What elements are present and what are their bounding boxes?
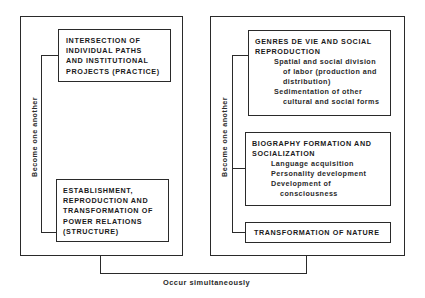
left-connector-bottom-branch bbox=[41, 232, 56, 233]
bottom-connector-horizontal bbox=[100, 273, 307, 274]
biography-title: BIOGRAPHY FORMATION AND SOCIALIZATION bbox=[252, 139, 390, 159]
right-connector-vertical bbox=[232, 55, 233, 233]
biography-item-2: Personality development bbox=[271, 169, 390, 179]
bottom-connector-right bbox=[306, 256, 307, 274]
genres-de-vie-box: GENRES DE VIE AND SOCIAL REPRODUCTION Sp… bbox=[248, 30, 391, 116]
genres-item-2: Sedimentation of other cultural and soci… bbox=[274, 87, 390, 107]
transformation-of-nature-title: TRANSFORMATION OF NATURE bbox=[254, 228, 390, 238]
biography-box: BIOGRAPHY FORMATION AND SOCIALIZATION La… bbox=[245, 132, 391, 206]
left-relation-label: Become one another bbox=[30, 97, 39, 177]
right-connector-middle-branch bbox=[232, 168, 245, 169]
genres-item-1: Spatial and social division of labor (pr… bbox=[274, 57, 390, 87]
right-connector-top-branch bbox=[232, 55, 248, 56]
transformation-of-nature-box: TRANSFORMATION OF NATURE bbox=[245, 222, 391, 243]
left-connector-vertical bbox=[41, 55, 42, 233]
biography-item-1: Language acquisition bbox=[271, 159, 390, 169]
bottom-connector-left bbox=[100, 256, 101, 274]
biography-item-3: Development of consciousness bbox=[271, 179, 390, 199]
structure-box-title: ESTABLISHMENT, REPRODUCTION AND TRANSFOR… bbox=[63, 186, 168, 237]
simultaneity-label: Occur simultaneously bbox=[163, 278, 250, 287]
left-connector-top-branch bbox=[41, 55, 58, 56]
practice-box: INTERSECTION OF INDIVIDUAL PATHS AND INS… bbox=[58, 29, 171, 82]
biography-items: Language acquisition Personality develop… bbox=[252, 159, 390, 199]
genres-de-vie-items: Spatial and social division of labor (pr… bbox=[255, 57, 390, 107]
genres-de-vie-title: GENRES DE VIE AND SOCIAL REPRODUCTION bbox=[255, 37, 390, 57]
right-relation-label: Become one another bbox=[220, 97, 229, 177]
structure-box: ESTABLISHMENT, REPRODUCTION AND TRANSFOR… bbox=[56, 179, 169, 242]
right-connector-bottom-branch bbox=[232, 232, 245, 233]
practice-box-title: INTERSECTION OF INDIVIDUAL PATHS AND INS… bbox=[66, 36, 170, 77]
